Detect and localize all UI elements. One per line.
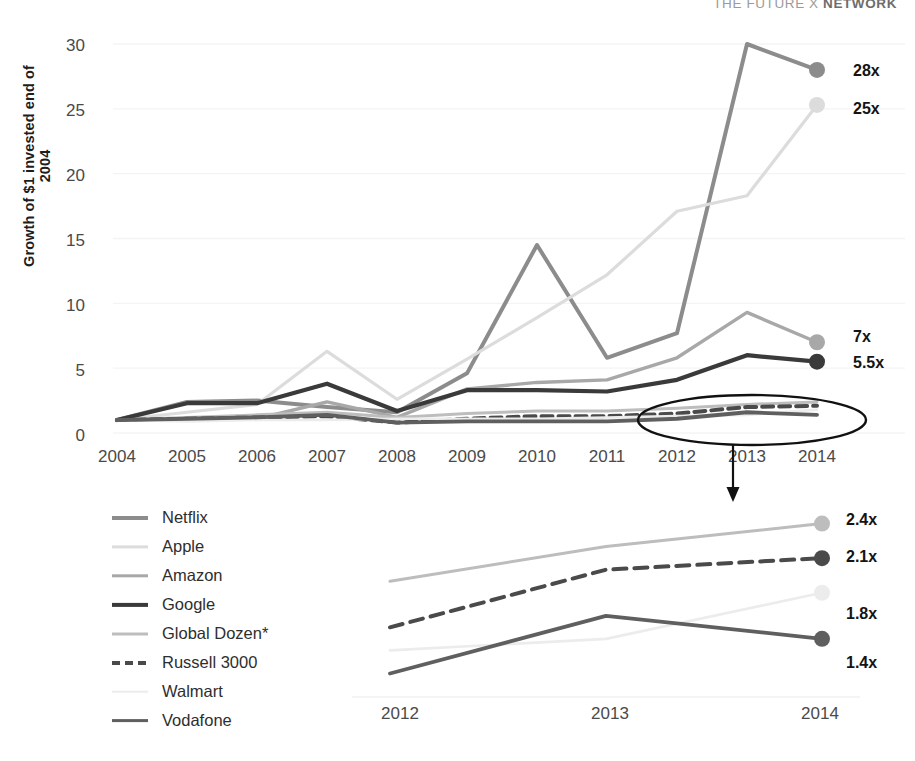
value-label-apple: 25x xyxy=(853,101,880,117)
legend-item-apple[interactable]: Apple xyxy=(112,532,268,561)
chart-page: THE FUTURE X NETWORK Growth of $1 invest… xyxy=(0,0,915,761)
legend-item-netflix[interactable]: Netflix xyxy=(112,503,268,532)
legend: Netflix Apple Amazon Google Global Dozen… xyxy=(112,503,268,735)
legend-label-apple: Apple xyxy=(162,537,204,556)
legend-label-global-dozen: Global Dozen* xyxy=(162,624,268,643)
legend-swatch-vodafone xyxy=(112,714,148,728)
legend-item-amazon[interactable]: Amazon xyxy=(112,561,268,590)
inset-endpoint-dots xyxy=(814,516,830,647)
legend-swatch-google xyxy=(112,598,148,612)
legend-item-global-dozen[interactable]: Global Dozen* xyxy=(112,619,268,648)
legend-swatch-amazon xyxy=(112,569,148,583)
legend-label-netflix: Netflix xyxy=(162,508,208,527)
legend-item-vodafone[interactable]: Vodafone xyxy=(112,706,268,735)
inset-value-label-global-dozen: 2.4x xyxy=(846,512,877,528)
legend-swatch-russell-3000 xyxy=(112,656,148,670)
legend-label-google: Google xyxy=(162,595,215,614)
inset-value-label-russell-3000: 2.1x xyxy=(846,549,877,565)
legend-item-google[interactable]: Google xyxy=(112,590,268,619)
legend-label-amazon: Amazon xyxy=(162,566,223,585)
legend-swatch-global-dozen xyxy=(112,627,148,641)
callout-arrow-head xyxy=(727,487,740,502)
main-series-group xyxy=(117,44,817,423)
value-label-netflix: 28x xyxy=(853,63,880,79)
inset-series-group xyxy=(390,524,822,674)
legend-label-russell-3000: Russell 3000 xyxy=(162,653,257,672)
legend-label-vodafone: Vodafone xyxy=(162,711,232,730)
legend-swatch-walmart xyxy=(112,685,148,699)
inset-value-label-vodafone: 1.4x xyxy=(846,655,877,671)
legend-label-walmart: Walmart xyxy=(162,682,223,701)
legend-swatch-netflix xyxy=(112,511,148,525)
legend-item-russell-3000[interactable]: Russell 3000 xyxy=(112,648,268,677)
value-label-amazon: 7x xyxy=(853,329,871,345)
inset-value-label-walmart: 1.8x xyxy=(846,606,877,622)
value-label-google: 5.5x xyxy=(853,355,884,371)
legend-swatch-apple xyxy=(112,540,148,554)
gridlines xyxy=(113,44,905,433)
main-endpoint-dots xyxy=(809,62,825,370)
legend-item-walmart[interactable]: Walmart xyxy=(112,677,268,706)
